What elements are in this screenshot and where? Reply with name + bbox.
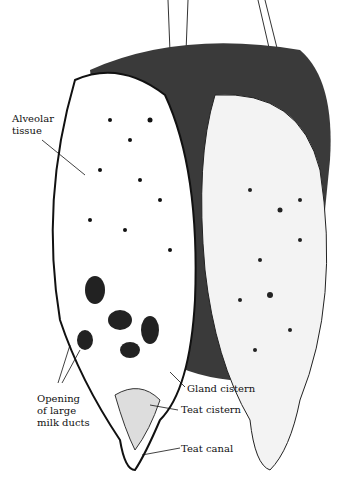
- label-alveolar-tissue: Alveolar tissue: [12, 113, 54, 137]
- label-teat-canal: Teat canal: [181, 443, 233, 455]
- label-teat-cistern: Teat cistern: [181, 404, 241, 416]
- label-gland-cistern: Gland cistern: [187, 383, 255, 395]
- label-opening-ducts: Opening of large milk ducts: [37, 393, 90, 429]
